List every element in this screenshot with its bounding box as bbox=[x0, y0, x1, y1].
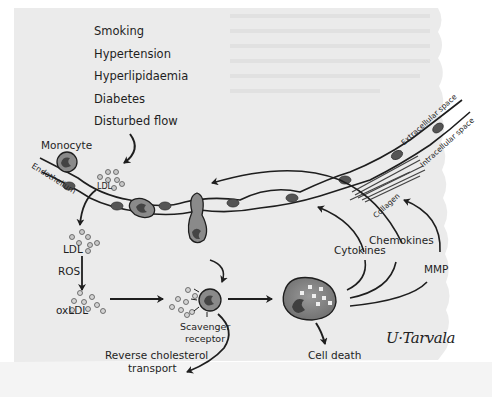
monocyte-cell bbox=[57, 152, 77, 172]
risk-factor-diabetes: Diabetes bbox=[94, 94, 145, 106]
oxldl-label: oxLDL bbox=[56, 305, 88, 316]
mmp-label: MMP bbox=[424, 264, 448, 275]
chemokines-label: Chemokines bbox=[369, 235, 434, 246]
ros-label: ROS bbox=[58, 266, 80, 277]
risk-factor-smoking: Smoking bbox=[94, 26, 144, 38]
cytokines-label: Cytokines bbox=[334, 245, 386, 256]
scavenger-label-line1: Scavenger bbox=[180, 322, 230, 332]
reverse-cholesterol-label-line2: transport bbox=[128, 363, 177, 374]
scavenger-label-line2: receptor bbox=[185, 334, 225, 344]
risk-factor-hyperlipidaemia: Hyperlipidaemia bbox=[94, 71, 188, 83]
risk-factor-disturbed-flow: Disturbed flow bbox=[94, 116, 178, 128]
monocyte-label: Monocyte bbox=[41, 140, 92, 151]
artist-signature: U·Tarvala bbox=[386, 329, 455, 347]
risk-factor-hypertension: Hypertension bbox=[94, 49, 171, 61]
cell-death-label: Cell death bbox=[308, 350, 361, 361]
ldl-label-top: LDL bbox=[97, 183, 112, 191]
reverse-cholesterol-label-line1: Reverse cholesterol bbox=[105, 350, 208, 361]
ldl-label-mid: LDL bbox=[63, 244, 83, 255]
